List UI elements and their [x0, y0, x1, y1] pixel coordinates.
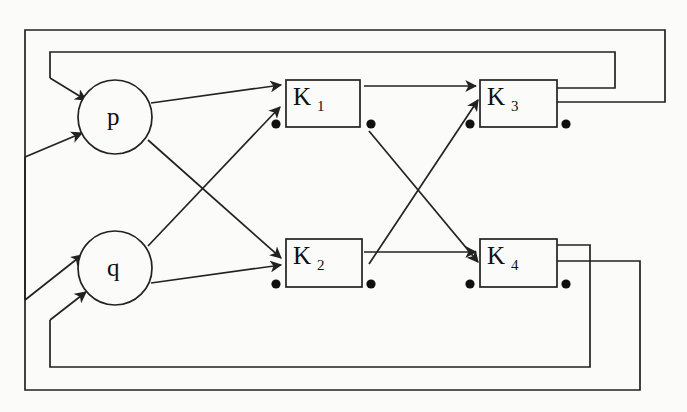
diagram-canvas [0, 0, 687, 412]
terminal-dot-k4-left [465, 279, 474, 288]
block-box-k1[interactable] [286, 80, 360, 127]
arrow-q-to-k1 [148, 107, 280, 246]
arrow-k2-to-k3 [369, 100, 478, 264]
arrow-p-to-k2 [148, 140, 281, 258]
diagram-root: p q K 1 K 3 K 2 K 4 [0, 0, 687, 412]
block-box-k4[interactable] [480, 239, 557, 287]
arrow-k1-to-k4 [369, 131, 478, 262]
terminal-dot-k2-right [366, 279, 375, 288]
arrow-external-input-q [50, 292, 86, 320]
node-circle-q[interactable] [78, 231, 152, 305]
arrow-feedback-input-q [25, 255, 82, 300]
block-box-k3[interactable] [480, 80, 557, 127]
terminal-dot-k1-left [271, 119, 280, 128]
terminal-dot-k3-right [561, 119, 570, 128]
terminal-dot-k1-right [366, 119, 375, 128]
arrow-q-to-k2 [151, 265, 281, 283]
terminal-dot-k3-left [465, 119, 474, 128]
terminal-dot-k4-right [561, 279, 570, 288]
arrow-feedback-input-p [50, 78, 86, 100]
nodes-group [78, 80, 557, 305]
node-circle-p[interactable] [78, 80, 152, 154]
arrow-p-to-k1 [151, 85, 281, 103]
block-box-k2[interactable] [286, 239, 362, 287]
terminal-dot-k2-left [271, 279, 280, 288]
arrow-external-input-p [25, 133, 82, 157]
